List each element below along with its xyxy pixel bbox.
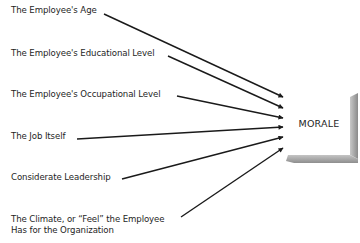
arrow-job-itself: [77, 127, 283, 139]
arrow-occupational-level: [177, 96, 283, 118]
factor-occupational-level: The Employee's Occupational Level: [11, 89, 160, 100]
morale-label: MORALE: [288, 118, 350, 129]
factor-age: The Employee's Age: [11, 5, 97, 16]
factor-educational-level: The Employee's Educational Level: [11, 48, 155, 59]
factor-job-itself: The Job Itself: [11, 131, 65, 142]
arrow-climate: [181, 148, 283, 217]
morale-box-bevel-right: [350, 93, 358, 159]
arrow-considerate-leadership: [122, 137, 283, 179]
arrow-educational-level: [168, 56, 283, 108]
factor-climate-line1: The Climate, or “Feel” the Employee: [11, 214, 164, 225]
morale-box-bevel-bottom: [286, 155, 358, 163]
factor-considerate-leadership: Considerate Leadership: [11, 172, 111, 183]
factor-climate-line2: Has for the Organization: [11, 225, 114, 236]
